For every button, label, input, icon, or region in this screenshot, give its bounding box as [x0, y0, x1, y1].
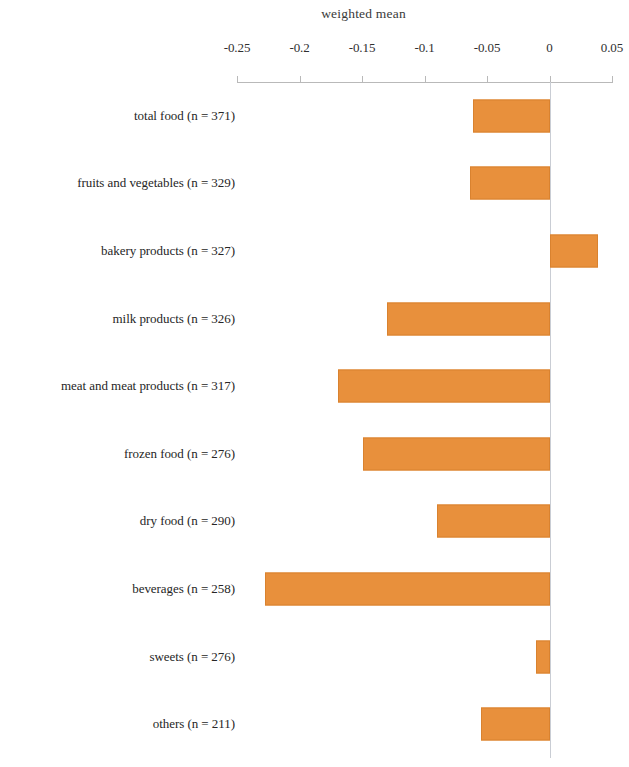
category-label: milk products (n = 326)	[113, 311, 235, 327]
chart-row: total food (n = 371)	[0, 82, 629, 150]
bar	[387, 302, 550, 335]
bar	[363, 437, 549, 470]
x-axis-tick-label: -0.25	[224, 40, 251, 56]
x-axis-tick-label: 0.05	[601, 40, 623, 56]
bar	[473, 99, 549, 132]
x-axis-tick-label: 0	[546, 40, 552, 56]
bar	[550, 234, 599, 267]
chart-row: dry food (n = 290)	[0, 488, 629, 556]
chart-row: others (n = 211)	[0, 690, 629, 758]
chart-row: meat and meat products (n = 317)	[0, 352, 629, 420]
category-label: dry food (n = 290)	[140, 513, 235, 529]
x-axis-tick-label: -0.05	[474, 40, 501, 56]
chart-row: frozen food (n = 276)	[0, 420, 629, 488]
plot-area: total food (n = 371)fruits and vegetable…	[0, 82, 629, 758]
category-label: total food (n = 371)	[134, 108, 235, 124]
bar	[481, 708, 550, 741]
chart-row: fruits and vegetables (n = 329)	[0, 150, 629, 218]
bar	[536, 640, 550, 673]
chart-row: beverages (n = 258)	[0, 555, 629, 623]
category-label: frozen food (n = 276)	[124, 446, 235, 462]
bar	[338, 370, 549, 403]
chart-row: bakery products (n = 327)	[0, 217, 629, 285]
bar	[437, 505, 550, 538]
weighted-mean-bar-chart: weighted mean -0.25-0.2-0.15-0.1-0.0500.…	[0, 0, 629, 767]
category-label: sweets (n = 276)	[149, 649, 235, 665]
bar	[265, 572, 550, 605]
bar	[470, 167, 550, 200]
category-label: beverages (n = 258)	[132, 581, 235, 597]
x-axis-tick-label: -0.2	[289, 40, 309, 56]
category-label: others (n = 211)	[153, 716, 235, 732]
category-label: meat and meat products (n = 317)	[61, 378, 235, 394]
x-axis-tick-label: -0.1	[414, 40, 434, 56]
category-label: bakery products (n = 327)	[101, 243, 235, 259]
chart-row: milk products (n = 326)	[0, 285, 629, 353]
x-axis-tick-label: -0.15	[349, 40, 376, 56]
chart-row: sweets (n = 276)	[0, 623, 629, 691]
category-label: fruits and vegetables (n = 329)	[77, 175, 235, 191]
